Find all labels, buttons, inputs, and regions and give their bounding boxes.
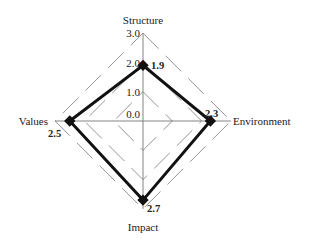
value-label-impact: 2.7 — [147, 203, 160, 214]
value-label-values: 2.5 — [48, 128, 61, 139]
tick-label-1: 1.0 — [126, 86, 140, 98]
axis-label-structure: Structure — [123, 14, 163, 26]
radar-chart: Structure Environment Impact Values 0.0 … — [0, 0, 315, 239]
value-label-structure: 1.9 — [151, 60, 164, 71]
axis-label-environment: Environment — [233, 115, 290, 127]
radar-axes — [55, 33, 231, 209]
tick-label-0: 0.0 — [126, 108, 140, 120]
radar-series — [64, 60, 216, 206]
value-label-environment: 2.3 — [205, 108, 218, 119]
tick-label-2: 2.0 — [126, 57, 140, 69]
tick-label-3: 3.0 — [126, 27, 140, 39]
axis-label-values: Values — [19, 115, 48, 127]
axis-label-impact: Impact — [128, 221, 159, 233]
